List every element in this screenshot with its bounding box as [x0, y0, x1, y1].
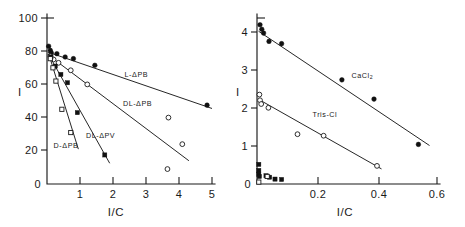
data-point [63, 55, 68, 60]
right-ytick-3: 3 [241, 64, 248, 76]
right-xtick-02: 0.2 [310, 188, 327, 200]
series-label-l-apb: L-ΔPB [125, 70, 149, 79]
data-point [165, 167, 170, 172]
left-x-ticks [80, 177, 212, 184]
data-point [68, 68, 73, 73]
right-ytick-1: 1 [241, 140, 248, 152]
series-d-pb [48, 54, 78, 149]
data-point [295, 132, 300, 137]
right-xtick-06: 0.6 [429, 188, 446, 200]
series-label-cacl2-main: CaCl [352, 71, 370, 80]
series-label-tris-cl: Tris-Cl [313, 110, 338, 119]
data-point [279, 41, 284, 46]
series-label-cacl2: CaCl2 [352, 71, 374, 81]
right-yaxis-title: I [236, 86, 240, 98]
data-point [71, 56, 76, 61]
left-xtick-5: 5 [209, 188, 216, 200]
data-point [257, 168, 261, 172]
left-xtick-1: 1 [77, 188, 84, 200]
data-point [205, 103, 210, 108]
data-point [257, 180, 261, 184]
left-xtick-3: 3 [143, 188, 150, 200]
data-point [166, 115, 171, 120]
right-xaxis-title: I/C [337, 206, 354, 218]
data-point [69, 130, 73, 134]
data-point [259, 102, 264, 107]
series-baseline-cluster [257, 162, 284, 181]
data-point [54, 79, 58, 83]
right-ytick-2: 2 [241, 102, 248, 114]
right-ytick-4: 4 [241, 26, 248, 38]
data-point [51, 66, 55, 70]
data-point [267, 39, 272, 44]
series-label-dl-apb: DL-ΔPB [123, 99, 152, 108]
left-ytick-80: 80 [25, 45, 38, 57]
data-point [257, 162, 261, 166]
data-point [416, 142, 421, 147]
data-point [340, 78, 345, 83]
data-point [261, 31, 266, 36]
right-ytick-0: 0 [244, 178, 251, 190]
series-label-dl-apv: DL-ΔPV [86, 131, 115, 140]
data-point [48, 57, 52, 61]
left-ytick-60: 60 [25, 78, 38, 90]
figure-root: 100 80 60 40 20 0 1 2 3 4 5 I/C I L-ΔPB … [0, 0, 465, 227]
series-label-cacl2-subscript: 2 [370, 74, 373, 80]
chart-panel-right: 4 3 2 1 0 0.2 0.4 0.6 I/C I CaCl2 Tris-C… [235, 0, 465, 227]
left-xtick-4: 4 [176, 188, 183, 200]
data-point [375, 163, 380, 168]
data-point [60, 107, 64, 111]
data-point [103, 153, 107, 157]
data-point [258, 22, 263, 27]
left-chart-svg: 100 80 60 40 20 0 1 2 3 4 5 I/C I L-ΔPB … [0, 0, 235, 227]
left-ytick-40: 40 [25, 111, 38, 123]
right-y-ticks [251, 18, 265, 146]
left-ytick-20: 20 [25, 144, 38, 156]
left-yaxis-title: I [18, 86, 22, 98]
data-point [93, 63, 98, 68]
data-point [372, 97, 377, 102]
data-point [321, 133, 326, 138]
data-point [265, 174, 269, 178]
right-x-ticks [318, 177, 437, 184]
regression-line [259, 31, 430, 145]
data-point [59, 72, 63, 76]
left-xaxis-title: I/C [108, 206, 125, 218]
data-point [85, 82, 90, 87]
right-chart-svg: 4 3 2 1 0 0.2 0.4 0.6 I/C I CaCl2 Tris-C… [235, 0, 465, 227]
right-xtick-04: 0.4 [371, 188, 388, 200]
data-point [65, 81, 69, 85]
left-ytick-0: 0 [34, 178, 41, 190]
series-dl-pb [48, 54, 189, 172]
left-ytick-100: 100 [18, 12, 38, 24]
right-plot-content [257, 22, 430, 184]
series-tris-cl [257, 92, 382, 169]
series-label-d-apb: D-ΔPB [54, 141, 79, 150]
data-point [273, 177, 277, 181]
left-xtick-2: 2 [110, 188, 117, 200]
data-point [266, 105, 271, 110]
series-cacl2 [258, 22, 430, 146]
data-point [180, 142, 185, 147]
data-point [257, 174, 261, 178]
data-point [280, 177, 284, 181]
right-axes [257, 14, 440, 184]
data-point [75, 111, 79, 115]
data-point [55, 51, 60, 56]
data-point [257, 92, 262, 97]
chart-panel-left: 100 80 60 40 20 0 1 2 3 4 5 I/C I L-ΔPB … [0, 0, 235, 227]
